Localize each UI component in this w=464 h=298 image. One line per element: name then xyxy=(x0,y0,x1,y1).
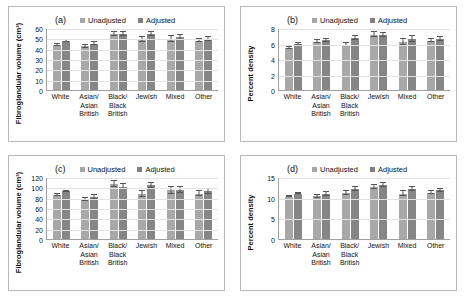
bar-unadjusted[interactable] xyxy=(138,194,146,239)
error-bar-cap xyxy=(380,36,386,37)
bar-adjusted[interactable] xyxy=(322,40,330,90)
error-bar-cap xyxy=(400,38,406,39)
error-bar-cap xyxy=(91,41,97,42)
legend-swatch-adjusted-icon xyxy=(370,18,375,23)
error-bar-cap xyxy=(295,193,301,194)
bar-adjusted[interactable] xyxy=(119,187,127,239)
error-bar-cap xyxy=(400,195,406,196)
bar-adjusted[interactable] xyxy=(147,185,155,239)
bar-unadjusted[interactable] xyxy=(167,39,175,90)
error-bar-cap xyxy=(196,195,202,196)
bar-slot xyxy=(427,178,435,239)
error-bar-cap xyxy=(91,194,97,195)
x-tick-label: White xyxy=(278,242,307,268)
y-tick-label: 10 xyxy=(35,77,43,84)
x-tick-label: Mixed xyxy=(161,242,190,268)
x-tick-label: Jewish xyxy=(132,93,161,119)
gridline xyxy=(47,230,218,231)
bar-adjusted[interactable] xyxy=(408,39,416,90)
bar-adjusted[interactable] xyxy=(90,197,98,239)
x-tick-label: White xyxy=(46,242,75,268)
bar-unadjusted[interactable] xyxy=(195,41,203,90)
bar-unadjusted[interactable] xyxy=(53,195,61,239)
error-bar-cap xyxy=(54,45,60,46)
error-bar-cap xyxy=(437,40,443,41)
panel-b-frame: (b) Unadjusted Adjusted Percent density … xyxy=(240,6,457,142)
error-bar-cap xyxy=(352,39,358,40)
bar-unadjusted[interactable] xyxy=(399,194,407,239)
bar-adjusted[interactable] xyxy=(436,190,444,239)
panel-c: (c) Unadjusted Adjusted Fibroglandular v… xyxy=(0,149,232,298)
x-tick-label: Mixed xyxy=(393,93,422,119)
bar-adjusted[interactable] xyxy=(379,35,387,90)
error-bar-cap xyxy=(168,35,174,36)
x-tick-label: Mixed xyxy=(161,93,190,119)
y-tick-label: 60 xyxy=(35,26,43,33)
bar-unadjusted[interactable] xyxy=(285,197,293,239)
bar-unadjusted[interactable] xyxy=(370,187,378,239)
bar-adjusted[interactable] xyxy=(351,38,359,90)
bar-adjusted[interactable] xyxy=(408,189,416,239)
bar-group xyxy=(365,178,394,239)
bar-unadjusted[interactable] xyxy=(285,48,293,90)
gridline xyxy=(47,60,218,61)
panel-d-plot-area: 051015 WhiteAsian/AsianBritishBlack/Blac… xyxy=(257,178,452,284)
legend-item-adjusted: Adjusted xyxy=(370,165,407,174)
error-bar-cap xyxy=(371,36,377,37)
y-tick-label: 100 xyxy=(31,185,43,192)
bar-adjusted[interactable] xyxy=(379,185,387,239)
bar-adjusted[interactable] xyxy=(294,194,302,239)
bar-unadjusted[interactable] xyxy=(110,184,118,239)
bar-unadjusted[interactable] xyxy=(195,194,203,239)
bar-unadjusted[interactable] xyxy=(342,45,350,90)
error-bar-cap xyxy=(343,190,349,191)
legend-item-adjusted: Adjusted xyxy=(370,16,407,25)
bar-group xyxy=(279,178,308,239)
error-bar-cap xyxy=(111,35,117,36)
bar-unadjusted[interactable] xyxy=(342,193,350,239)
legend-swatch-adjusted-icon xyxy=(137,167,142,172)
bar-unadjusted[interactable] xyxy=(370,35,378,90)
bar-unadjusted[interactable] xyxy=(53,45,61,90)
bar-adjusted[interactable] xyxy=(176,37,184,90)
bar-adjusted[interactable] xyxy=(294,44,302,90)
bar-unadjusted[interactable] xyxy=(399,42,407,90)
legend-item-unadjusted: Unadjusted xyxy=(80,165,126,174)
bar-unadjusted[interactable] xyxy=(427,193,435,239)
error-bar-cap xyxy=(196,190,202,191)
bar-unadjusted[interactable] xyxy=(427,41,435,90)
x-tick-label: Black/BlackBritish xyxy=(335,93,364,119)
bar-adjusted[interactable] xyxy=(351,189,359,239)
error-bar-cap xyxy=(286,196,292,197)
bar-adjusted[interactable] xyxy=(204,39,212,90)
error-bar-cap xyxy=(323,38,329,39)
bar-unadjusted[interactable] xyxy=(81,46,89,90)
bar-adjusted[interactable] xyxy=(176,190,184,239)
panel-d-frame: (d) Unadjusted Adjusted Percent density … xyxy=(240,155,457,291)
panel-b-y-ticks: 02468 xyxy=(257,29,277,91)
x-tick-label: White xyxy=(46,93,75,119)
bar-unadjusted[interactable] xyxy=(313,196,321,239)
legend-item-adjusted: Adjusted xyxy=(138,16,175,25)
bar-adjusted[interactable] xyxy=(322,194,330,239)
legend-label-unadjusted: Unadjusted xyxy=(320,165,358,174)
error-bar-cap xyxy=(205,36,211,37)
bar-adjusted[interactable] xyxy=(62,41,70,90)
bar-group xyxy=(336,178,365,239)
bar-unadjusted[interactable] xyxy=(313,42,321,90)
gridline xyxy=(47,70,218,71)
error-bar-cap xyxy=(380,182,386,183)
error-bar-cap xyxy=(380,32,386,33)
x-tick-label: Other xyxy=(421,242,450,268)
legend-swatch-adjusted-icon xyxy=(370,167,375,172)
bar-adjusted[interactable] xyxy=(436,39,444,90)
error-bar-cap xyxy=(323,41,329,42)
bar-unadjusted[interactable] xyxy=(138,39,146,90)
panel-b-plot-area: 02468 WhiteAsian/AsianBritishBlack/Black… xyxy=(257,29,452,135)
bar-adjusted[interactable] xyxy=(90,44,98,90)
panel-c-x-labels: WhiteAsian/AsianBritishBlack/BlackBritis… xyxy=(46,242,218,268)
y-tick-label: 50 xyxy=(35,36,43,43)
panel-b-x-labels: WhiteAsian/AsianBritishBlack/BlackBritis… xyxy=(278,93,450,119)
x-tick-label: Black/BlackBritish xyxy=(335,242,364,268)
error-bar-cap xyxy=(428,41,434,42)
